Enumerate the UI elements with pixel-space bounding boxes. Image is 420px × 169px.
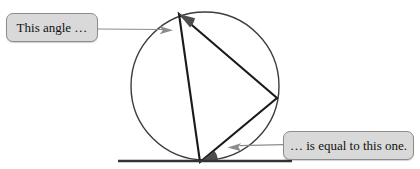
left-connector-arrow-icon	[160, 26, 173, 34]
callout-left[interactable]: This angle …	[6, 13, 98, 42]
diagram-stage: This angle … … is equal to this one.	[0, 0, 420, 169]
callout-right-label: … is equal to this one.	[284, 139, 413, 152]
right-connector-arrow-icon	[228, 143, 242, 151]
left-connector-line	[98, 29, 163, 30]
callout-right[interactable]: … is equal to this one.	[283, 131, 414, 160]
triangle-shape	[179, 14, 277, 162]
right-connector-line	[240, 145, 283, 146]
circle-shape	[131, 12, 279, 160]
callout-left-label: This angle …	[11, 21, 94, 34]
